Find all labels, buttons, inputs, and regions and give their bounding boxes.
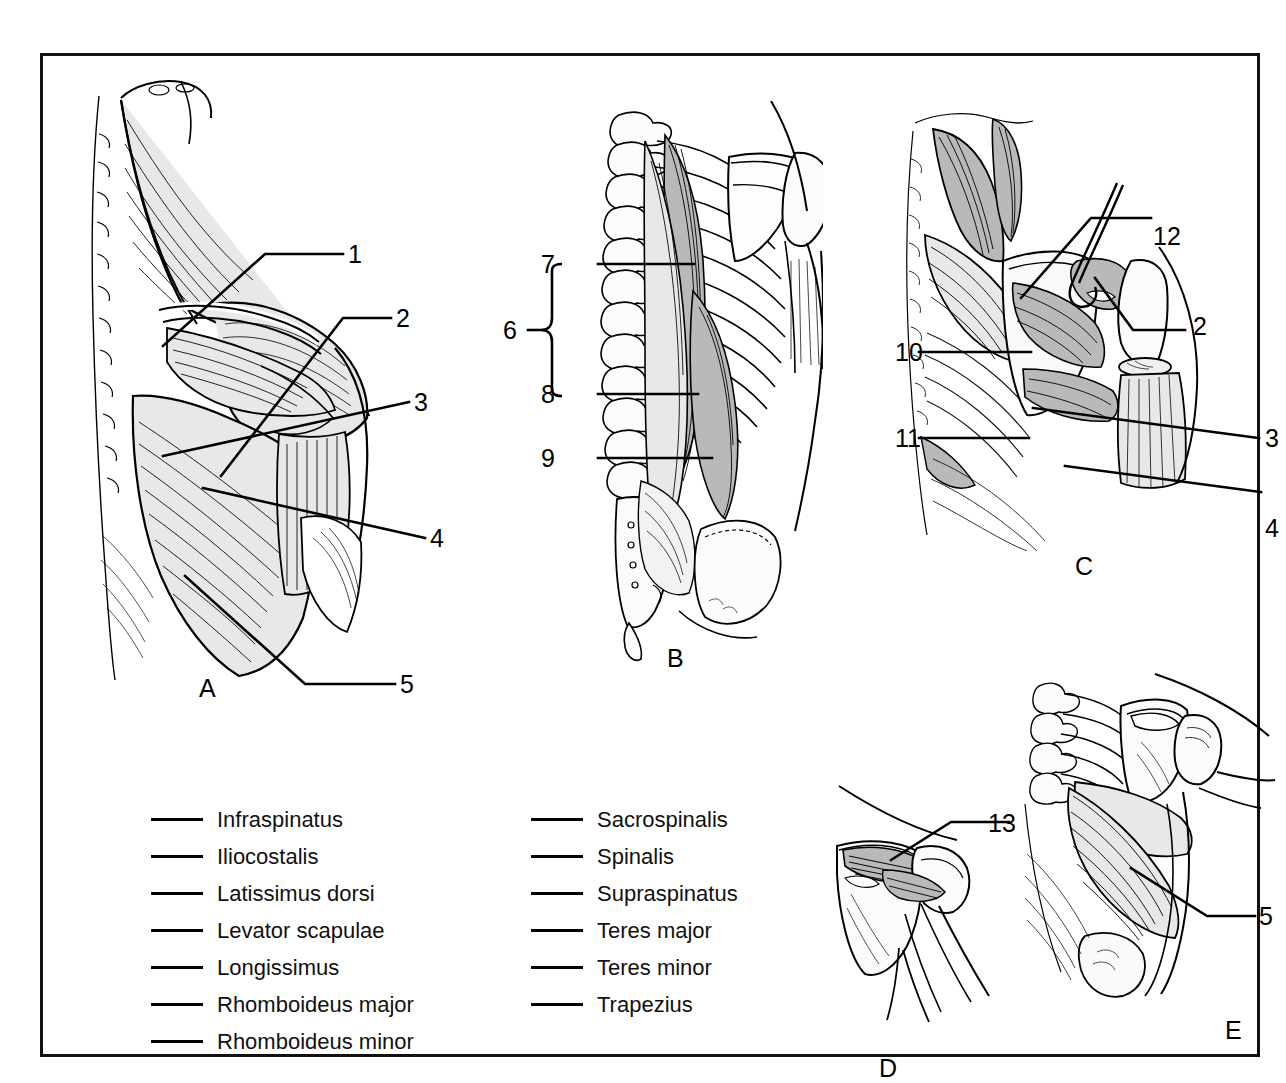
- panel-c-label-4: 4: [1265, 516, 1279, 541]
- word-list-label: Trapezius: [597, 992, 693, 1018]
- word-list-label: Infraspinatus: [217, 807, 343, 833]
- panel-a-letter: A: [199, 676, 216, 701]
- word-list-item[interactable]: Trapezius: [531, 986, 738, 1023]
- word-list-label: Teres major: [597, 918, 712, 944]
- word-list-item[interactable]: Teres minor: [531, 949, 738, 986]
- word-list-item[interactable]: Latissimus dorsi: [151, 875, 414, 912]
- word-list-label: Longissimus: [217, 955, 339, 981]
- word-list-label: Iliocostalis: [217, 844, 318, 870]
- word-list-item[interactable]: Longissimus: [151, 949, 414, 986]
- panel-b-label-9: 9: [541, 446, 555, 471]
- answer-blank[interactable]: [531, 966, 583, 969]
- panel-a-label-1: 1: [348, 242, 362, 267]
- word-list-label: Teres minor: [597, 955, 712, 981]
- answer-blank[interactable]: [151, 966, 203, 969]
- word-list-item[interactable]: Rhomboideus major: [151, 986, 414, 1023]
- word-list-label: Rhomboideus minor: [217, 1029, 414, 1055]
- word-list-item[interactable]: Supraspinatus: [531, 875, 738, 912]
- word-list-label: Supraspinatus: [597, 881, 738, 907]
- panel-a-label-2: 2: [396, 306, 410, 331]
- answer-blank[interactable]: [151, 855, 203, 858]
- panel-a-label-4: 4: [430, 526, 444, 551]
- answer-blank[interactable]: [151, 892, 203, 895]
- word-list-item[interactable]: Iliocostalis: [151, 838, 414, 875]
- answer-blank[interactable]: [531, 855, 583, 858]
- answer-blank[interactable]: [151, 1040, 203, 1043]
- panel-e-leaders: [1043, 816, 1283, 976]
- panel-c-label-3: 3: [1265, 426, 1279, 451]
- word-list-label: Rhomboideus major: [217, 992, 414, 1018]
- panel-c-label-11: 11: [895, 426, 921, 451]
- panel-a-leaders: [43, 56, 443, 716]
- panel-b-label-7: 7: [541, 252, 555, 277]
- word-list-item[interactable]: Teres major: [531, 912, 738, 949]
- panel-c-label-2: 2: [1193, 314, 1207, 339]
- word-list-item[interactable]: Rhomboideus minor: [151, 1023, 414, 1060]
- word-list-item[interactable]: Sacrospinalis: [531, 801, 738, 838]
- panel-c-letter: C: [1075, 554, 1093, 579]
- word-list-item[interactable]: Levator scapulae: [151, 912, 414, 949]
- panel-b-label-6: 6: [503, 318, 517, 343]
- word-list-label: Spinalis: [597, 844, 674, 870]
- worksheet-page: 1 2 3 4 5 A: [0, 0, 1286, 1083]
- panel-c-label-12: 12: [1153, 224, 1181, 249]
- figure-frame: 1 2 3 4 5 A: [40, 53, 1260, 1057]
- answer-blank[interactable]: [531, 818, 583, 821]
- panel-b-letter: B: [667, 646, 684, 671]
- panel-e-letter: E: [1225, 1018, 1242, 1043]
- panel-a-label-5: 5: [400, 672, 414, 697]
- word-list-label: Sacrospinalis: [597, 807, 728, 833]
- word-list-item[interactable]: Spinalis: [531, 838, 738, 875]
- answer-blank[interactable]: [151, 929, 203, 932]
- panel-c-label-10: 10: [895, 340, 923, 365]
- answer-blank[interactable]: [151, 818, 203, 821]
- word-list-column-right: Sacrospinalis Spinalis Supraspinatus Ter…: [531, 801, 738, 1023]
- panel-b-label-8: 8: [541, 382, 555, 407]
- panel-e-label-5: 5: [1259, 904, 1273, 929]
- word-list-label: Latissimus dorsi: [217, 881, 375, 907]
- panel-d-letter: D: [879, 1056, 897, 1081]
- answer-blank[interactable]: [531, 929, 583, 932]
- word-list-column-left: Infraspinatus Iliocostalis Latissimus do…: [151, 801, 414, 1060]
- answer-blank[interactable]: [531, 1003, 583, 1006]
- word-list-label: Levator scapulae: [217, 918, 385, 944]
- panel-c-leaders: [833, 166, 1286, 586]
- panel-a-label-3: 3: [414, 390, 428, 415]
- answer-blank[interactable]: [151, 1003, 203, 1006]
- answer-blank[interactable]: [531, 892, 583, 895]
- word-list-item[interactable]: Infraspinatus: [151, 801, 414, 838]
